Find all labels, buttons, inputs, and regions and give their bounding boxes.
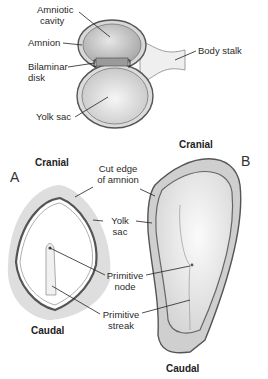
- label-bilaminar-disk: Bilaminar disk: [28, 61, 68, 83]
- label-yolk-sac-bottom: Yolk sac: [104, 215, 136, 237]
- bilaminar-disk-shape: [94, 58, 130, 67]
- label-amnion: Amnion: [28, 37, 60, 48]
- label-cut-edge-of-amnion: Cut edge of amnion: [92, 163, 144, 185]
- label-amniotic-cavity-line2: cavity: [37, 15, 73, 26]
- label-yolk-line2: sac: [104, 226, 136, 237]
- label-streak-line2: streak: [98, 320, 144, 331]
- panel-a-caudal: Caudal: [31, 325, 64, 336]
- label-node-line1: Primitive: [103, 270, 147, 281]
- label-amniotic-cavity-line1: Amniotic: [37, 4, 73, 15]
- panel-a-letter: A: [10, 172, 19, 183]
- label-bilaminar-line1: Bilaminar: [28, 61, 68, 72]
- label-primitive-streak: Primitive streak: [98, 309, 144, 331]
- panel-b-letter: B: [241, 156, 250, 167]
- panel-b-caudal: Caudal: [166, 363, 199, 374]
- label-body-stalk: Body stalk: [198, 45, 242, 56]
- label-amniotic-cavity: Amniotic cavity: [37, 4, 73, 26]
- label-cut-edge-line1: Cut edge: [92, 163, 144, 174]
- panel-b-cranial: Cranial: [179, 139, 213, 150]
- label-cut-edge-line2: of amnion: [92, 174, 144, 185]
- panel-a-cranial: Cranial: [35, 157, 69, 168]
- label-streak-line1: Primitive: [98, 309, 144, 320]
- label-yolk-sac-top: Yolk sac: [36, 111, 71, 122]
- label-primitive-node: Primitive node: [103, 270, 147, 292]
- label-node-line2: node: [103, 281, 147, 292]
- yolk-sac-shape: [77, 64, 153, 128]
- label-yolk-line1: Yolk: [104, 215, 136, 226]
- panel-b-embryo: [148, 159, 241, 353]
- label-bilaminar-line2: disk: [28, 72, 68, 83]
